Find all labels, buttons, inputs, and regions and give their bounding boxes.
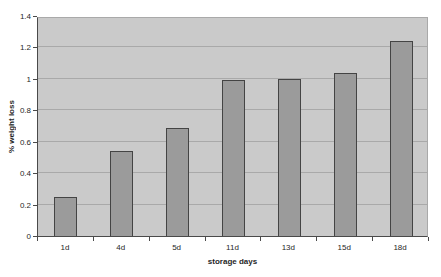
x-tick-mark	[260, 237, 261, 241]
gridline	[38, 46, 427, 47]
x-tick-label: 1d	[37, 244, 93, 252]
bar-18d	[390, 41, 413, 236]
x-tick-mark	[205, 237, 206, 241]
x-tick-label: 11d	[205, 244, 261, 252]
x-tick-label: 4d	[93, 244, 149, 252]
y-tick-mark	[33, 79, 37, 80]
y-tick-label: 0.8	[20, 107, 31, 115]
x-tick-mark	[149, 237, 150, 241]
y-tick-label: 1	[27, 76, 31, 84]
y-tick-mark	[33, 110, 37, 111]
y-tick-mark	[33, 47, 37, 48]
y-tick-label: 0.2	[20, 202, 31, 210]
y-tick-mark	[33, 142, 37, 143]
x-tick-label: 13d	[260, 244, 316, 252]
x-tick-mark	[37, 237, 38, 241]
y-tick-label: 0	[27, 233, 31, 241]
bar-11d	[222, 80, 245, 236]
bar-4d	[110, 151, 133, 236]
x-tick-mark	[372, 237, 373, 241]
y-tick-label: 1.4	[20, 13, 31, 21]
bar-chart-figure: % weight loss 00.20.40.60.811.21.4 stora…	[0, 0, 441, 277]
bar-15d	[334, 73, 357, 236]
x-tick-mark	[428, 237, 429, 241]
y-tick-label: 1.2	[20, 44, 31, 52]
y-tick-mark	[33, 16, 37, 17]
bar-5d	[166, 128, 189, 236]
x-tick-mark	[316, 237, 317, 241]
y-tick-mark	[33, 205, 37, 206]
y-tick-mark	[33, 173, 37, 174]
x-tick-label: 15d	[316, 244, 372, 252]
y-axis-tick-labels: 00.20.40.60.811.21.4	[0, 17, 31, 237]
gridline	[38, 78, 427, 79]
bar-1d	[54, 197, 77, 236]
x-axis-title: storage days	[37, 257, 428, 266]
bar-13d	[278, 79, 301, 236]
x-tick-label: 18d	[372, 244, 428, 252]
plot-area	[37, 17, 428, 237]
y-tick-label: 0.6	[20, 139, 31, 147]
x-tick-label: 5d	[149, 244, 205, 252]
x-tick-mark	[93, 237, 94, 241]
y-tick-label: 0.4	[20, 170, 31, 178]
